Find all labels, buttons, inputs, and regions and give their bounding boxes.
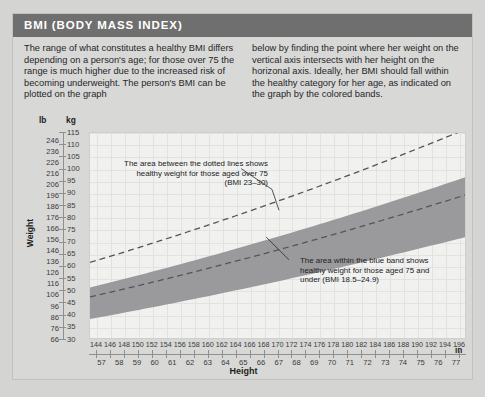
y-tick-label-lb: 196 bbox=[27, 191, 59, 200]
y-tick-mark bbox=[59, 327, 66, 328]
y-tick-label-kg: 45 bbox=[67, 298, 89, 307]
x-tick-mark bbox=[305, 350, 306, 358]
x-tick-label-cm: 196 bbox=[453, 340, 465, 349]
y-tick-label-kg: 30 bbox=[67, 335, 89, 344]
x-tick-label-cm: 182 bbox=[355, 340, 367, 349]
y-tick-label-kg: 95 bbox=[67, 176, 89, 185]
x-tick-label-cm: 194 bbox=[439, 340, 451, 349]
x-tick-label-cm: 162 bbox=[216, 340, 228, 349]
x-tick-label-in: 62 bbox=[186, 358, 194, 367]
x-tick-label-cm: 154 bbox=[160, 340, 172, 349]
y-tick-label-lb: 146 bbox=[27, 246, 59, 255]
x-tick-mark bbox=[417, 350, 418, 358]
y-tick-mark bbox=[59, 290, 66, 291]
intro-text: The range of what constitutes a healthy … bbox=[24, 43, 464, 101]
y-tick-label-lb: 186 bbox=[27, 202, 59, 211]
y-tick-label-kg: 40 bbox=[67, 310, 89, 319]
y-tick-mark bbox=[59, 156, 66, 157]
x-tick-label-in: 63 bbox=[204, 358, 212, 367]
x-tick-mark bbox=[361, 350, 362, 358]
x-tick-mark bbox=[208, 350, 209, 358]
x-tick-label-cm: 168 bbox=[258, 340, 270, 349]
y-tick-label-lb: 116 bbox=[27, 279, 59, 288]
y-tick-label-lb: 86 bbox=[27, 313, 59, 322]
x-tick-label-cm: 184 bbox=[369, 340, 381, 349]
y-tick-label-kg: 85 bbox=[67, 201, 89, 210]
x-tick-label-cm: 158 bbox=[188, 340, 200, 349]
x-tick-mark bbox=[333, 350, 334, 358]
x-tick-label-cm: 192 bbox=[425, 340, 437, 349]
y-tick-label-kg: 75 bbox=[67, 225, 89, 234]
x-tick-label-cm: 166 bbox=[244, 340, 256, 349]
y-tick-label-kg: 105 bbox=[67, 152, 89, 161]
x-tick-mark bbox=[96, 350, 97, 358]
y-tick-mark bbox=[59, 217, 66, 218]
x-tick-label-cm: 150 bbox=[132, 340, 144, 349]
y-tick-label-kg: 80 bbox=[67, 213, 89, 222]
x-tick-label-cm: 156 bbox=[174, 340, 186, 349]
x-tick-mark bbox=[278, 350, 279, 358]
y-tick-mark bbox=[59, 144, 66, 145]
x-tick-label-cm: 178 bbox=[327, 340, 339, 349]
y-tick-mark bbox=[59, 193, 66, 194]
x-tick-label-in: 60 bbox=[150, 358, 158, 367]
x-tick-label-in: 75 bbox=[416, 358, 424, 367]
x-tick-label-cm: 176 bbox=[313, 340, 325, 349]
bmi-card: BMI (BODY MASS INDEX) The range of what … bbox=[12, 13, 473, 380]
x-tick-mark bbox=[445, 350, 446, 358]
x-tick-label-cm: 170 bbox=[272, 340, 284, 349]
x-tick-mark bbox=[459, 350, 460, 358]
y-tick-label-kg: 60 bbox=[67, 261, 89, 270]
y-tick-label-lb: 126 bbox=[27, 268, 59, 277]
y-tick-mark bbox=[59, 229, 66, 230]
y-tick-label-lb: 216 bbox=[27, 169, 59, 178]
x-tick-mark bbox=[194, 350, 195, 358]
y-tick-label-lb: 136 bbox=[27, 257, 59, 266]
bmi-chart: lb kg Weight Height cm in 11511010510095… bbox=[13, 106, 474, 381]
x-tick-label-in: 73 bbox=[381, 358, 389, 367]
x-tick-label-in: 72 bbox=[363, 358, 371, 367]
x-tick-label-in: 64 bbox=[221, 358, 229, 367]
y-tick-mark bbox=[59, 205, 66, 206]
x-tick-mark bbox=[166, 350, 167, 358]
y-tick-label-kg: 70 bbox=[67, 237, 89, 246]
x-tick-label-cm: 180 bbox=[341, 340, 353, 349]
y-tick-label-lb: 66 bbox=[27, 335, 59, 344]
y-tick-label-lb: 236 bbox=[27, 147, 59, 156]
x-tick-label-cm: 148 bbox=[118, 340, 130, 349]
x-tick-mark bbox=[138, 350, 139, 358]
x-tick-label-cm: 186 bbox=[383, 340, 395, 349]
y-tick-label-kg: 50 bbox=[67, 286, 89, 295]
y-tick-label-kg: 115 bbox=[67, 128, 89, 137]
y-tick-mark bbox=[59, 132, 66, 133]
y-tick-label-kg: 110 bbox=[67, 140, 89, 149]
x-tick-label-cm: 188 bbox=[397, 340, 409, 349]
x-tick-label-in: 58 bbox=[115, 358, 123, 367]
x-tick-label-cm: 172 bbox=[285, 340, 297, 349]
x-tick-mark bbox=[403, 350, 404, 358]
y-tick-label-kg: 90 bbox=[67, 188, 89, 197]
x-tick-mark bbox=[110, 350, 111, 358]
y-tick-label-kg: 55 bbox=[67, 274, 89, 283]
x-tick-mark bbox=[347, 350, 348, 358]
x-tick-label-cm: 164 bbox=[230, 340, 242, 349]
y-tick-mark bbox=[59, 315, 66, 316]
y-tick-label-lb: 246 bbox=[27, 136, 59, 145]
x-tick-mark bbox=[222, 350, 223, 358]
page-root: BMI (BODY MASS INDEX) The range of what … bbox=[0, 0, 485, 397]
x-tick-label-cm: 146 bbox=[104, 340, 116, 349]
x-tick-label-in: 74 bbox=[399, 358, 407, 367]
y-tick-label-lb: 206 bbox=[27, 180, 59, 189]
y-tick-mark bbox=[59, 242, 66, 243]
x-tick-label-in: 68 bbox=[292, 358, 300, 367]
y-tick-label-lb: 166 bbox=[27, 224, 59, 233]
x-tick-label-in: 70 bbox=[328, 358, 336, 367]
x-tick-label-in: 76 bbox=[434, 358, 442, 367]
x-tick-mark bbox=[264, 350, 265, 358]
x-tick-mark bbox=[389, 350, 390, 358]
x-tick-mark bbox=[375, 350, 376, 358]
annotation-leader-lines bbox=[90, 133, 465, 338]
y-tick-label-lb: 96 bbox=[27, 302, 59, 311]
x-axis: 1441461481501521541561581601621641661681… bbox=[89, 340, 466, 380]
intro-column-2: below by finding the point where her wei… bbox=[252, 43, 464, 101]
